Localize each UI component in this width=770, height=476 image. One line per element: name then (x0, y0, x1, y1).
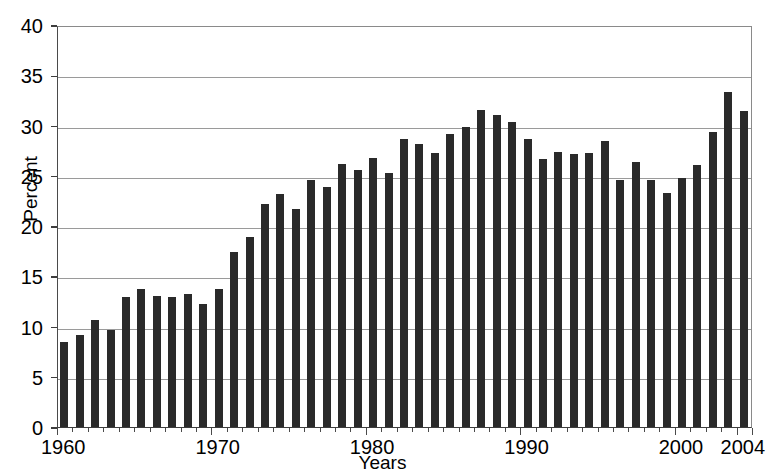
x-tick (397, 428, 398, 432)
x-tick (428, 428, 429, 432)
y-tick-label-5: 5 (1, 368, 43, 388)
bar (724, 92, 732, 427)
x-tick-label-1990: 1990 (492, 437, 562, 457)
x-tick (366, 428, 367, 435)
x-tick-label-1980: 1980 (337, 437, 407, 457)
bar (601, 141, 609, 427)
bar (570, 154, 578, 427)
bar (323, 187, 331, 427)
x-tick (150, 428, 151, 432)
bar (292, 209, 300, 427)
x-tick (690, 428, 691, 432)
bar (107, 330, 115, 428)
x-tick (242, 428, 243, 432)
x-tick (459, 428, 460, 432)
x-tick (474, 428, 475, 432)
bar (554, 152, 562, 427)
bar (184, 294, 192, 427)
x-tick (273, 428, 274, 432)
x-tick (103, 428, 104, 432)
bar (477, 110, 485, 427)
bar (261, 204, 269, 427)
x-tick (489, 428, 490, 432)
bar (369, 158, 377, 427)
x-tick (582, 428, 583, 432)
x-tick (320, 428, 321, 432)
x-tick (613, 428, 614, 432)
bar (199, 304, 207, 427)
x-tick (227, 428, 228, 432)
bar (462, 127, 470, 428)
bar (168, 297, 176, 427)
bar (276, 194, 284, 427)
bar (76, 335, 84, 428)
bar-series (58, 27, 751, 427)
x-tick-label-2004: 2004 (708, 437, 770, 457)
y-tick-label-0: 0 (1, 418, 43, 438)
bar (415, 144, 423, 427)
x-tick (335, 428, 336, 432)
x-tick (536, 428, 537, 432)
bar (539, 159, 547, 427)
x-tick-label-1960: 1960 (28, 437, 98, 457)
y-tick-label-30: 30 (1, 117, 43, 137)
bar (524, 139, 532, 427)
plot-area (57, 26, 752, 428)
x-tick (551, 428, 552, 432)
x-tick (412, 428, 413, 432)
bar (493, 115, 501, 427)
x-tick (211, 428, 212, 435)
bar (400, 139, 408, 427)
x-tick (737, 428, 738, 435)
x-tick (520, 428, 521, 435)
bar (585, 153, 593, 427)
bar (230, 252, 238, 427)
x-tick (628, 428, 629, 432)
x-tick (119, 428, 120, 432)
x-tick (567, 428, 568, 432)
x-tick (644, 428, 645, 432)
bar (354, 170, 362, 427)
x-tick (706, 428, 707, 432)
x-tick (443, 428, 444, 432)
bar (60, 342, 68, 427)
x-tick (165, 428, 166, 432)
y-tick-label-25: 25 (1, 167, 43, 187)
x-tick-label-2000: 2000 (646, 437, 716, 457)
bar (137, 289, 145, 427)
bar (153, 296, 161, 427)
x-tick (304, 428, 305, 432)
x-tick (381, 428, 382, 432)
x-tick (258, 428, 259, 432)
bar (678, 178, 686, 427)
x-tick (598, 428, 599, 432)
y-tick-label-40: 40 (1, 16, 43, 36)
bar (647, 180, 655, 427)
bar (508, 122, 516, 428)
x-tick (72, 428, 73, 432)
x-tick-label-1970: 1970 (183, 437, 253, 457)
y-tick-label-35: 35 (1, 66, 43, 86)
x-tick (675, 428, 676, 435)
x-tick (134, 428, 135, 432)
x-tick (721, 428, 722, 432)
y-tick-label-20: 20 (1, 217, 43, 237)
bar (616, 180, 624, 427)
x-tick (88, 428, 89, 432)
bar (693, 165, 701, 427)
bar (709, 132, 717, 428)
y-tick-label-10: 10 (1, 318, 43, 338)
x-tick (57, 428, 58, 435)
bar (632, 162, 640, 427)
x-tick (196, 428, 197, 432)
bar (91, 320, 99, 428)
x-tick (752, 428, 753, 435)
bar (431, 153, 439, 427)
bar (385, 173, 393, 427)
bar (307, 180, 315, 427)
y-tick-label-15: 15 (1, 267, 43, 287)
bar (246, 237, 254, 427)
x-tick (505, 428, 506, 432)
bar (663, 193, 671, 427)
